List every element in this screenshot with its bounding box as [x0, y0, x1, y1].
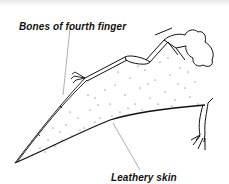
label-leathery-skin: Leathery skin	[111, 172, 177, 183]
leader-line-skin	[113, 123, 140, 170]
wing-membrane	[15, 45, 205, 163]
leader-line-bones	[63, 28, 70, 95]
label-bones-of-fourth-finger: Bones of fourth finger	[19, 21, 126, 32]
